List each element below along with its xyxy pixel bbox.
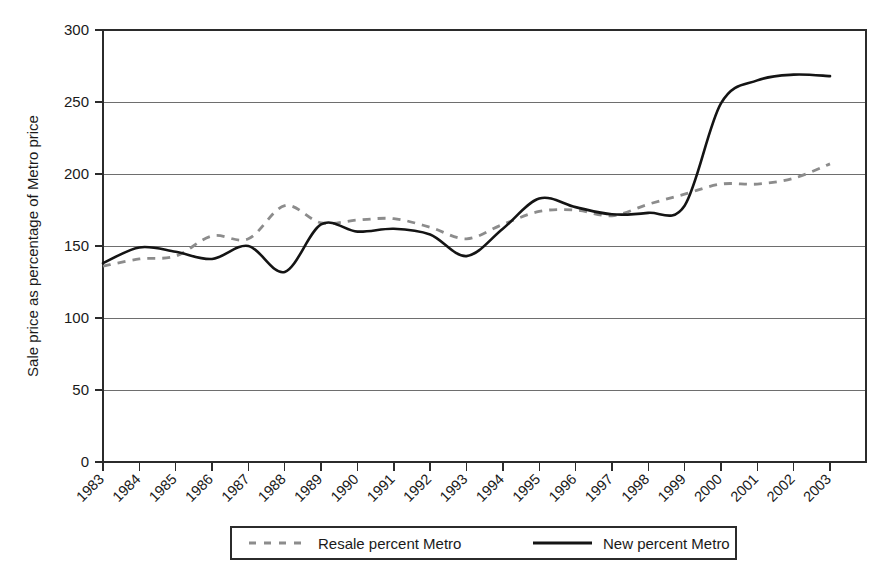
y-tick-label: 300: [64, 21, 89, 38]
legend-label-resale: Resale percent Metro: [318, 535, 461, 552]
y-tick-label: 200: [64, 165, 89, 182]
y-tick-label: 50: [72, 381, 89, 398]
y-tick-label: 150: [64, 237, 89, 254]
y-tick-label: 250: [64, 93, 89, 110]
chart-canvas: 050100150200250300 198319841985198619871…: [0, 0, 887, 584]
x-axis-ticks: [103, 462, 830, 471]
legend-label-new: New percent Metro: [603, 535, 730, 552]
y-tick-label: 0: [81, 453, 89, 470]
y-axis-title: Sale price as percentage of Metro price: [24, 115, 41, 377]
line-chart-figure: 050100150200250300 198319841985198619871…: [0, 0, 887, 584]
chart-legend: Resale percent Metro New percent Metro: [231, 527, 736, 559]
y-tick-label: 100: [64, 309, 89, 326]
